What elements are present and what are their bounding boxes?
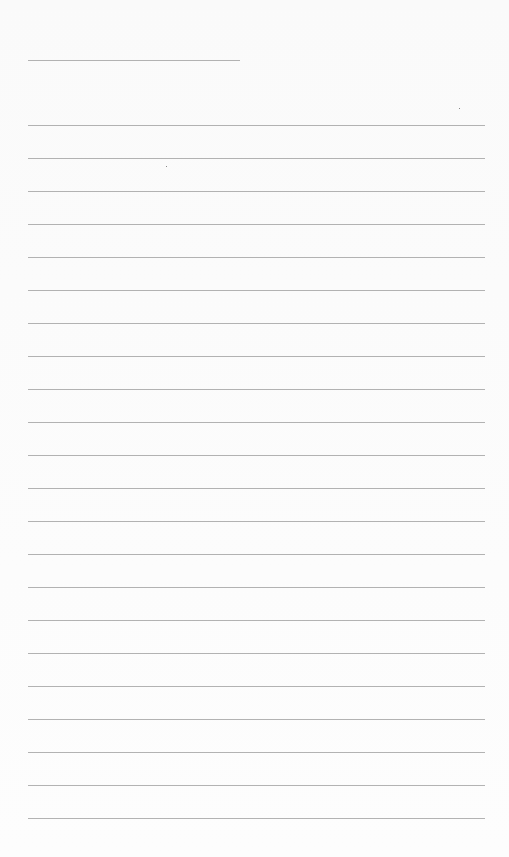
ruled-line	[28, 257, 485, 258]
title-line	[28, 60, 240, 61]
ruled-line	[28, 488, 485, 489]
speck	[166, 166, 167, 167]
ruled-line	[28, 521, 485, 522]
speck	[459, 108, 460, 109]
ruled-line	[28, 455, 485, 456]
ruled-line	[28, 125, 485, 126]
ruled-line	[28, 323, 485, 324]
ruled-line	[28, 653, 485, 654]
ruled-line	[28, 356, 485, 357]
ruled-line	[28, 422, 485, 423]
ruled-line	[28, 686, 485, 687]
ruled-line	[28, 587, 485, 588]
ruled-line	[28, 785, 485, 786]
ruled-line	[28, 389, 485, 390]
ruled-line	[28, 290, 485, 291]
ruled-line	[28, 224, 485, 225]
ruled-line	[28, 752, 485, 753]
ruled-line	[28, 158, 485, 159]
ruled-line	[28, 719, 485, 720]
ruled-line	[28, 818, 485, 819]
ruled-line	[28, 620, 485, 621]
ruled-line	[28, 554, 485, 555]
ruled-line	[28, 191, 485, 192]
notebook-page	[0, 0, 509, 857]
